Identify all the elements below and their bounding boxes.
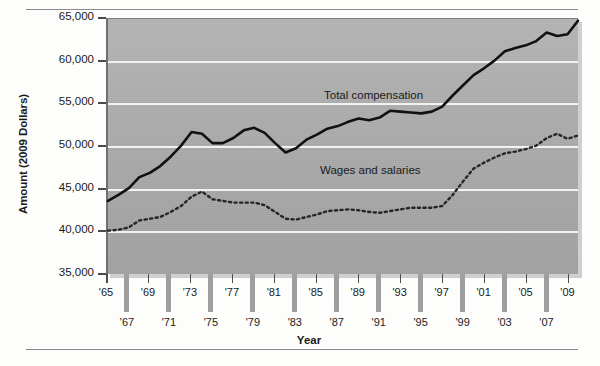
y-axis-tick-label: 50,000 — [24, 138, 94, 150]
x-axis-tick-label: '73 — [175, 286, 205, 298]
x-axis-tick-label: '83 — [280, 316, 310, 328]
x-axis-tick — [400, 274, 402, 283]
x-axis-tick-label: '07 — [532, 316, 562, 328]
x-axis-connector-bar — [502, 274, 507, 312]
x-axis-tick — [484, 274, 486, 283]
x-axis-tick-label: '97 — [427, 286, 457, 298]
x-axis-tick-label: '65 — [91, 286, 121, 298]
x-axis-connector-bar — [166, 274, 171, 312]
x-axis — [106, 274, 580, 282]
x-axis-tick-label: '91 — [364, 316, 394, 328]
x-axis-tick-label: '81 — [259, 286, 289, 298]
x-axis-tick — [106, 274, 108, 283]
series-lines — [108, 19, 578, 274]
x-axis-tick-label: '79 — [238, 316, 268, 328]
x-axis-tick — [568, 274, 570, 283]
x-axis-tick — [190, 274, 192, 283]
x-axis-tick — [526, 274, 528, 283]
y-axis-tick — [98, 102, 106, 104]
y-axis-tick — [98, 188, 106, 190]
y-axis-tick — [98, 273, 106, 275]
x-axis-tick-label: '89 — [343, 286, 373, 298]
x-axis-connector-bar — [334, 274, 339, 312]
x-axis-connector-bar — [544, 274, 549, 312]
y-axis-tick-label: 35,000 — [24, 266, 94, 278]
x-axis-connector-bar — [418, 274, 423, 312]
plot-area: Total compensation Wages and salaries — [106, 18, 578, 274]
x-axis-tick-label: '99 — [448, 316, 478, 328]
x-axis-tick-label: '75 — [196, 316, 226, 328]
bottom-divider-rule — [26, 349, 578, 350]
y-axis-tick — [98, 145, 106, 147]
x-axis-title: Year — [297, 334, 321, 346]
chart-figure: Amount (2009 Dollars) Total compensation… — [0, 0, 600, 366]
x-axis-tick-label: '03 — [490, 316, 520, 328]
y-axis-tick-label: 65,000 — [24, 10, 94, 22]
x-axis-tick — [316, 274, 318, 283]
x-axis-tick — [148, 274, 150, 283]
x-axis-connector-bar — [250, 274, 255, 312]
x-axis-tick-label: '67 — [112, 316, 142, 328]
x-axis-tick-label: '09 — [553, 286, 583, 298]
y-axis-tick-label: 60,000 — [24, 53, 94, 65]
y-axis-tick — [98, 17, 106, 19]
x-axis-connector-bar — [292, 274, 297, 312]
x-axis-tick — [442, 274, 444, 283]
x-axis-tick — [274, 274, 276, 283]
y-axis-tick — [98, 230, 106, 232]
y-axis-tick-label: 55,000 — [24, 95, 94, 107]
x-axis-tick-label: '71 — [154, 316, 184, 328]
x-axis-tick-label: '85 — [301, 286, 331, 298]
x-axis-tick-label: '87 — [322, 316, 352, 328]
top-divider-rule — [26, 9, 578, 10]
x-axis-tick — [232, 274, 234, 283]
total-compensation-label: Total compensation — [324, 89, 423, 101]
x-axis-tick-label: '77 — [217, 286, 247, 298]
x-axis-connector-bar — [460, 274, 465, 312]
x-axis-tick-label: '01 — [469, 286, 499, 298]
x-axis-tick — [358, 274, 360, 283]
x-axis-title-wrap: Year — [0, 334, 600, 346]
x-axis-connector-bar — [376, 274, 381, 312]
x-axis-connector-bar — [208, 274, 213, 312]
x-axis-tick-label: '69 — [133, 286, 163, 298]
y-axis-tick — [98, 60, 106, 62]
x-axis-tick-label: '05 — [511, 286, 541, 298]
wages-and-salaries-label: Wages and salaries — [320, 164, 421, 176]
x-axis-tick-label: '93 — [385, 286, 415, 298]
x-axis-tick-label: '95 — [406, 316, 436, 328]
x-axis-connector-bar — [124, 274, 129, 312]
y-axis-tick-label: 40,000 — [24, 223, 94, 235]
y-axis-tick-label: 45,000 — [24, 181, 94, 193]
